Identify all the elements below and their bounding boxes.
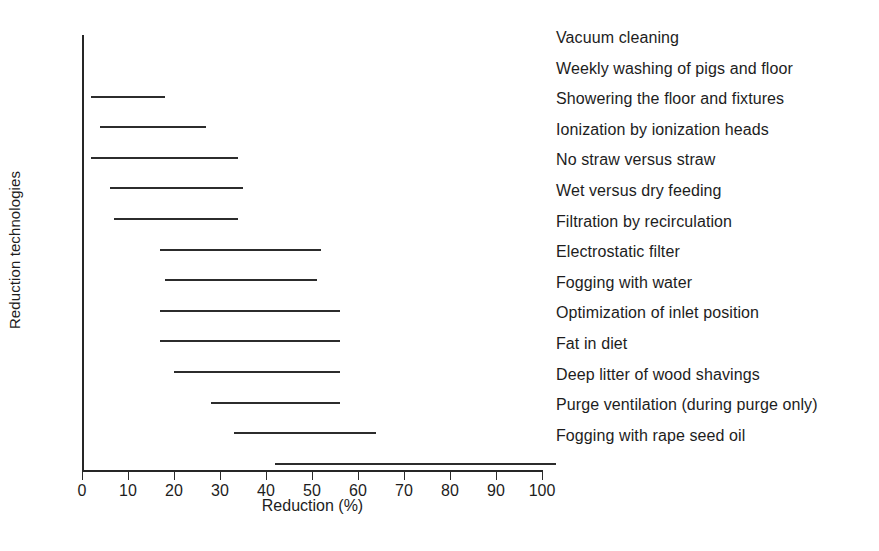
range-bar xyxy=(110,187,243,189)
range-bar xyxy=(91,96,165,98)
category-label: Filtration by recirculation xyxy=(556,213,732,231)
category-label: Weekly washing of pigs and floor xyxy=(556,60,793,78)
x-tick-mark xyxy=(82,472,83,480)
x-tick-mark xyxy=(358,472,359,480)
y-axis-line xyxy=(82,35,84,470)
category-label: Fogging with rape seed oil xyxy=(556,427,745,445)
range-bar xyxy=(160,310,339,312)
range-bar xyxy=(160,340,339,342)
x-tick-mark xyxy=(404,472,405,480)
x-tick-mark xyxy=(450,472,451,480)
range-bar xyxy=(160,249,321,251)
category-label: Ionization by ionization heads xyxy=(556,121,769,139)
range-bar xyxy=(91,157,238,159)
x-axis-title: Reduction (%) xyxy=(82,497,543,515)
x-tick-mark xyxy=(542,472,543,480)
range-bar-chart: Reduction technologies 01020304050607080… xyxy=(0,0,879,551)
range-bar xyxy=(234,432,377,434)
range-bar xyxy=(114,218,238,220)
leader-line xyxy=(542,463,556,465)
range-bar xyxy=(211,402,340,404)
range-bar xyxy=(174,371,340,373)
x-tick-mark xyxy=(496,472,497,480)
range-bar xyxy=(275,463,542,465)
plot-area: 0102030405060708090100 xyxy=(82,35,542,470)
category-label: Optimization of inlet position xyxy=(556,304,759,322)
x-tick-mark xyxy=(128,472,129,480)
category-label: No straw versus straw xyxy=(556,151,715,169)
category-label: Purge ventilation (during purge only) xyxy=(556,396,818,414)
range-bar xyxy=(165,279,317,281)
category-label: Fat in diet xyxy=(556,335,627,353)
category-label: Vacuum cleaning xyxy=(556,29,679,47)
y-axis-title: Reduction technologies xyxy=(6,0,23,130)
category-label: Fogging with water xyxy=(556,274,692,292)
x-tick-mark xyxy=(266,472,267,480)
category-label: Showering the floor and fixtures xyxy=(556,90,784,108)
x-tick-mark xyxy=(220,472,221,480)
category-label: Deep litter of wood shavings xyxy=(556,366,760,384)
category-label: Electrostatic filter xyxy=(556,243,680,261)
range-bar xyxy=(100,126,206,128)
x-tick-mark xyxy=(312,472,313,480)
y-axis-title-text: Reduction technologies xyxy=(6,130,23,370)
x-tick-mark xyxy=(174,472,175,480)
category-label: Wet versus dry feeding xyxy=(556,182,722,200)
